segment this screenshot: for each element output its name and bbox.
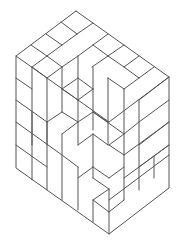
brick-edge: [124, 67, 139, 78]
brick-edge: [78, 112, 93, 122]
brick-edge: [109, 200, 124, 212]
brick-edge: [139, 77, 169, 100]
brick-edge: [32, 56, 47, 67]
brick-edge: [32, 67, 47, 78]
brick-edge: [78, 78, 93, 89]
brick-edge: [78, 89, 93, 100]
brick-edge: [93, 189, 109, 200]
brick-edge: [108, 56, 124, 67]
brick-edge: [93, 167, 109, 178]
brick-edge: [78, 134, 93, 145]
brick-edges: [16, 22, 169, 234]
brick-edge: [16, 78, 32, 89]
brick-edge: [47, 45, 62, 56]
brick-edge: [124, 56, 139, 67]
brick-edge: [109, 134, 124, 145]
brick-edge: [77, 23, 93, 34]
brick-edge: [139, 100, 169, 122]
block-drawing: [0, 0, 179, 250]
brick-edge: [139, 67, 154, 78]
brick-edge: [124, 78, 139, 89]
brick-edge: [47, 112, 62, 122]
brick-edge: [62, 122, 78, 134]
brick-edge: [61, 22, 77, 34]
brick-edge: [46, 34, 62, 45]
brick-edge: [62, 34, 77, 45]
brick-edge: [47, 67, 62, 78]
brick-edge: [62, 78, 78, 89]
brick-edge: [93, 134, 108, 145]
brick-edge: [62, 89, 78, 100]
brick-edge: [93, 45, 108, 56]
brick-edge: [78, 167, 93, 178]
brick-edge: [109, 167, 124, 178]
brick-edge: [78, 45, 93, 56]
brick-edge: [93, 178, 109, 189]
brick-edge: [108, 78, 124, 89]
brick-edge: [93, 34, 108, 45]
brick-edge: [93, 200, 109, 212]
brick-edge: [108, 45, 124, 56]
brick-edge: [47, 56, 62, 67]
brick-edge: [62, 112, 78, 122]
brick-edge: [62, 155, 78, 167]
brick-edge: [92, 56, 108, 67]
isometric-block-figure: [0, 0, 179, 250]
brick-edge: [62, 56, 78, 67]
brick-edge: [109, 145, 124, 155]
brick-edge: [124, 122, 139, 134]
brick-edge: [31, 45, 47, 56]
